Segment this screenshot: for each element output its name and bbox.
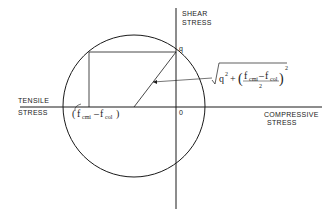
compressive-label-line2: STRESS [267,119,297,126]
svg-text:q: q [219,73,224,84]
svg-text:f: f [265,70,269,81]
intercept-label: ( f cmi – f col ) [72,108,119,120]
q-point-label: q [179,45,183,53]
radius-formula: q 2 + ( f cmi – f col 2 ) 2 [212,63,288,89]
svg-text:f: f [77,108,81,119]
tensile-label-line1: TENSILE [18,97,49,104]
svg-text:f: f [100,108,104,119]
svg-text:f: f [244,70,248,81]
svg-text:–: – [93,108,100,119]
formula-leader-line [153,78,212,82]
compressive-label-line1: COMPRESSIVE [264,111,319,118]
svg-text:2: 2 [285,65,288,71]
leader-arrowhead [153,80,157,84]
mohr-circle [63,35,205,177]
svg-text:(: ( [72,108,76,120]
svg-text:cmi: cmi [82,114,91,120]
svg-text:2: 2 [225,71,228,77]
mohr-circle-diagram: SHEAR STRESS TENSILE STRESS COMPRESSIVE … [0,0,336,220]
svg-text:2: 2 [259,83,262,89]
origin-label: 0 [179,109,183,116]
shear-label-line1: SHEAR [182,10,208,17]
tensile-label-line2: STRESS [18,109,48,116]
svg-text:–: – [258,70,265,81]
svg-text:(: ( [238,71,243,87]
svg-text:col: col [105,114,113,120]
shear-label-line2: STRESS [182,19,212,26]
svg-text:+: + [230,73,236,84]
svg-text:): ) [279,71,284,87]
radius-line [134,52,176,107]
svg-text:): ) [116,108,119,120]
